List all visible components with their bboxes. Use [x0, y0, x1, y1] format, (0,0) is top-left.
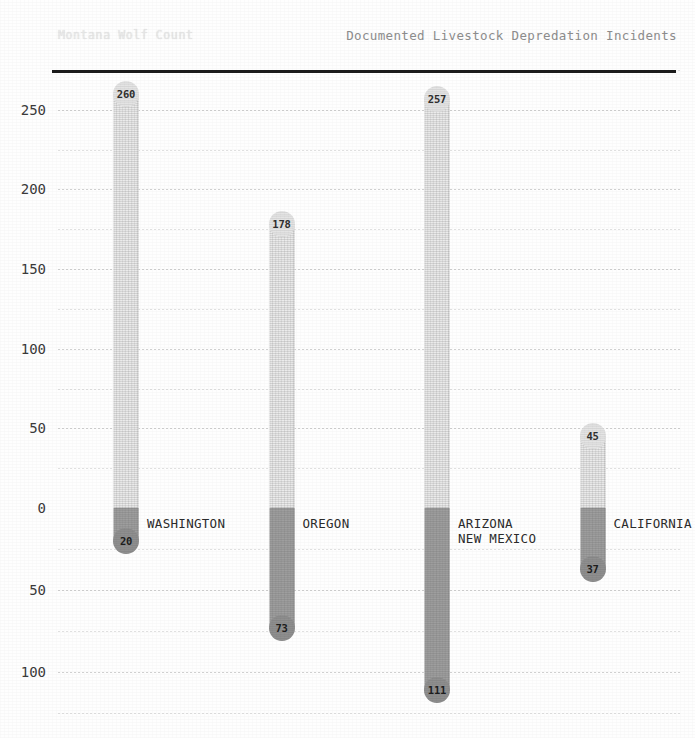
bar-value-label-negative: 111: [424, 677, 450, 703]
chart-page: Montana Wolf Count Documented Livestock …: [0, 0, 695, 738]
y-tick-label: 150: [21, 261, 46, 277]
bar-column[interactable]: 257111: [359, 70, 515, 718]
bar-value-label-positive: 260: [113, 81, 139, 107]
chart-subtitle-left: Montana Wolf Count: [58, 28, 193, 42]
y-tick-label: 100: [21, 664, 46, 680]
bar-value-label-positive: 45: [580, 423, 606, 449]
y-tick-label: 0: [38, 500, 46, 516]
y-tick-label: 50: [29, 582, 46, 598]
bar-value-label-negative: 20: [113, 528, 139, 554]
plot-area: 26020178732571114537 WASHINGTONOREGONARI…: [58, 70, 680, 718]
bar-negative[interactable]: [425, 508, 450, 690]
bar-value-label-positive: 257: [424, 86, 450, 112]
bar-positive[interactable]: [114, 94, 139, 508]
bar-negative[interactable]: [269, 508, 294, 628]
bar-positive[interactable]: [269, 224, 294, 508]
y-axis: 05010015020025050100: [0, 70, 50, 718]
bar-value-label-negative: 37: [580, 556, 606, 582]
bar-column[interactable]: 17873: [204, 70, 360, 718]
y-tick-label: 100: [21, 341, 46, 357]
y-tick-label: 250: [21, 102, 46, 118]
category-label: OREGON: [303, 516, 350, 531]
y-tick-label: 50: [29, 420, 46, 436]
bar-column[interactable]: 26020: [48, 70, 204, 718]
bar-column[interactable]: 4537: [515, 70, 671, 718]
bar-value-label-negative: 73: [269, 615, 295, 641]
zero-axis-line: [52, 70, 676, 73]
bar-value-label-positive: 178: [269, 211, 295, 237]
bar-positive[interactable]: [425, 99, 450, 508]
category-label: CALIFORNIA: [614, 516, 692, 531]
chart-title: Documented Livestock Depredation Inciden…: [346, 28, 677, 43]
chart-header: Montana Wolf Count Documented Livestock …: [0, 28, 695, 48]
category-label: ARIZONA NEW MEXICO: [458, 516, 536, 546]
category-label: WASHINGTON: [147, 516, 225, 531]
y-tick-label: 200: [21, 181, 46, 197]
